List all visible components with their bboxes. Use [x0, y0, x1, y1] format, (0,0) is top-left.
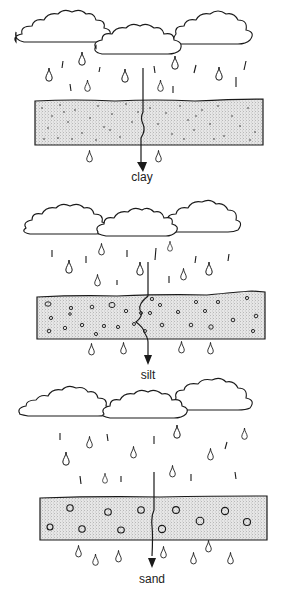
silt-panel	[24, 200, 265, 365]
soil-permeability-diagram	[0, 0, 281, 596]
arrowhead-icon	[144, 355, 152, 365]
sand-label: sand	[122, 572, 182, 586]
clay-label: clay	[112, 170, 172, 184]
clay-panel	[15, 10, 263, 172]
clay-soil-band	[35, 99, 263, 145]
silt-label: silt	[118, 368, 178, 382]
rain-drops	[52, 241, 229, 286]
cloud-icon	[15, 10, 252, 54]
arrowhead-icon	[148, 558, 156, 568]
rain-drops	[46, 52, 246, 93]
cloud-icon	[24, 200, 241, 236]
drained-drops	[87, 150, 162, 162]
sand-panel	[19, 378, 267, 568]
drained-drops	[89, 341, 214, 355]
cloud-icon	[19, 378, 252, 418]
